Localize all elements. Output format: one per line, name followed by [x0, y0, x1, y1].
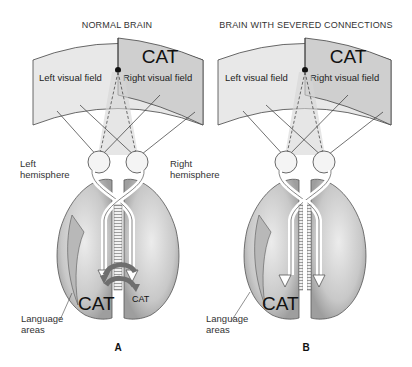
- panel-letter: A: [114, 342, 121, 353]
- left-field-label: Left visual field: [39, 72, 102, 83]
- severed-callosum-right: [307, 205, 311, 290]
- right-field-label: Right visual field: [123, 72, 192, 83]
- severed-callosum-left: [299, 205, 303, 290]
- panel-title: NORMAL BRAIN: [82, 20, 153, 30]
- left-brain-word: CAT: [78, 293, 115, 314]
- right-eye: [126, 151, 148, 173]
- right-field-label: Right visual field: [310, 72, 379, 83]
- left-hemisphere-label: Lefthemisphere: [20, 158, 70, 180]
- language-areas-label: Languageareas: [206, 313, 248, 335]
- right-brain-word: CAT: [132, 294, 150, 304]
- panel-severed-brain: BRAIN WITH SEVERED CONNECTIONS CAT Left …: [206, 20, 393, 353]
- left-eye: [275, 151, 297, 173]
- right-hemisphere-label: Righthemisphere: [170, 158, 220, 180]
- split-brain-diagram: NORMAL BRAIN CAT Left visual field Right…: [0, 0, 412, 367]
- left-brain-word: CAT: [262, 293, 299, 314]
- left-eye: [88, 151, 110, 173]
- left-field-label: Left visual field: [225, 72, 288, 83]
- panel-letter: B: [302, 342, 309, 353]
- stimulus-word: CAT: [330, 46, 367, 67]
- language-areas-label: Languageareas: [21, 313, 63, 335]
- panel-normal-brain: NORMAL BRAIN CAT Left visual field Right…: [20, 20, 220, 353]
- stimulus-word: CAT: [142, 46, 179, 67]
- panel-title: BRAIN WITH SEVERED CONNECTIONS: [219, 20, 393, 30]
- right-eye: [313, 151, 335, 173]
